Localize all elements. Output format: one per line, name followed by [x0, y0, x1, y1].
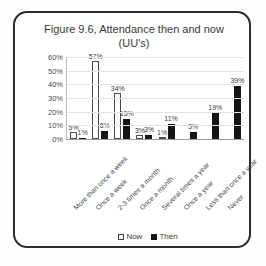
chart-legend: NowThen — [15, 232, 266, 241]
bar-now: 3% — [136, 135, 143, 139]
gridline — [67, 125, 244, 126]
bar-now: 57% — [92, 61, 99, 139]
chart-title: Figure 9.6, Attendance then and now (UU'… — [37, 22, 231, 50]
figure-frame: Figure 9.6, Attendance then and now (UU'… — [13, 11, 251, 248]
figure-page: Figure 9.6, Attendance then and now (UU'… — [0, 0, 266, 266]
gridline — [67, 84, 244, 85]
y-axis: 60%50%40%30%20%10%0% — [37, 57, 63, 143]
bar-then: 1% — [79, 138, 86, 140]
gridline — [67, 112, 244, 113]
x-axis-category-labels: More than once a weekOnce a week2-3 time… — [66, 140, 243, 212]
bar-value-label: 11% — [164, 115, 178, 123]
bar-value-label: 1% — [78, 129, 88, 137]
x-axis-label: Never — [227, 193, 246, 212]
y-axis-tick: 50% — [37, 66, 63, 75]
y-axis-tick: 0% — [37, 135, 63, 144]
bar-value-label: 3% — [144, 126, 154, 134]
y-axis-tick: 30% — [37, 94, 63, 103]
gridline — [67, 98, 244, 99]
bar-then: 15% — [123, 119, 130, 140]
plot-area: 5%1%57%6%34%15%3%3%1%11%5%19%39% — [66, 57, 244, 140]
y-axis-tick: 60% — [37, 53, 63, 62]
y-axis-tick: 40% — [37, 80, 63, 89]
bar-then: 3% — [145, 135, 152, 139]
bar-then: 6% — [101, 131, 108, 139]
legend-item-then[interactable]: Then — [151, 232, 177, 241]
page-bleed-text: · · · · · · · · · · · · · · · · · · · · … — [16, 255, 252, 266]
legend-label: Now — [126, 232, 142, 241]
hollow-square-icon — [118, 234, 124, 240]
bar-value-label: 34% — [111, 85, 125, 93]
filled-square-icon — [151, 234, 157, 240]
gridline — [67, 57, 244, 58]
bar-then: 5% — [190, 132, 197, 139]
bar-value-label: 1% — [157, 129, 167, 137]
bar-now: 5% — [70, 132, 77, 139]
y-axis-tick: 10% — [37, 121, 63, 130]
bar-now: 1% — [159, 137, 166, 139]
legend-label: Then — [159, 232, 177, 241]
y-axis-tick: 20% — [37, 107, 63, 116]
legend-item-now[interactable]: Now — [118, 232, 142, 241]
gridline — [67, 71, 244, 72]
